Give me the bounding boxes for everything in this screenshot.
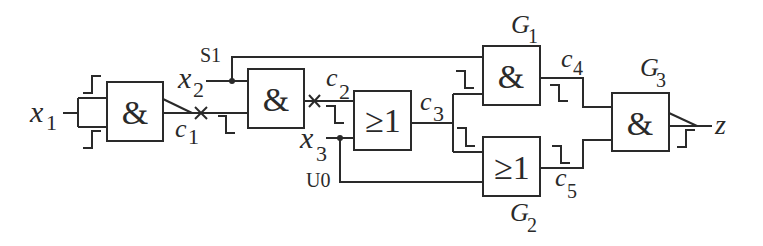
signal-c4-label: c [561,44,573,73]
gate-g3-symbol: & [627,105,653,142]
rising-edge-icon [677,130,695,147]
falling-edge-icon [326,106,344,123]
signal-c4-sub: 4 [573,57,583,79]
gate-g1: & G 1 [483,10,540,105]
signal-c3-sub: 3 [433,101,444,126]
gate-and-2-symbol: & [263,81,289,118]
rising-edge-icon [83,76,101,93]
falling-edge-icon [457,128,475,146]
gate-g1-symbol: & [498,58,524,95]
falling-edge-icon [550,85,568,101]
input-x2: x 2 [177,61,248,102]
signal-c2-sub: 2 [339,79,350,104]
signal-c5-label: c [555,163,567,192]
signal-c3-label: c [420,87,432,116]
falling-edge-icon [552,146,570,163]
fault-branch-s1: S1 [200,44,483,81]
gate-g2-symbol: ≥1 [494,149,530,186]
input-x2-sub: 2 [193,77,204,102]
fault-s1-label: S1 [200,44,221,66]
rising-edge-icon [83,131,101,148]
input-x1-sub: 1 [46,110,57,135]
signal-c1: c 1 [163,99,248,149]
gate-and-2: & [248,69,304,128]
gate-g3-sub: 3 [656,69,666,91]
signal-c5-sub: 5 [567,180,577,202]
input-x3-sub: 3 [316,141,327,166]
input-x3: x 3 [299,121,354,166]
gate-g2-sub: 2 [527,214,537,236]
gate-and-1: & [107,82,163,141]
output-z-label: z [714,109,726,140]
gate-or-1: ≥1 [354,91,411,150]
output-z: z [669,109,726,140]
gate-g1-sub: 1 [528,25,538,47]
gate-or-1-symbol: ≥1 [365,102,401,139]
gate-g2: ≥1 G 2 [483,137,540,236]
falling-edge-icon [456,71,474,88]
signal-c4: c 4 [540,44,612,107]
input-x3-label: x [299,121,314,154]
signal-c2-label: c [326,63,338,92]
signal-c5: c 5 [540,140,612,202]
gate-and-1-symbol: & [122,94,148,131]
logic-circuit-diagram: x 1 & c 1 x 2 S1 & c 2 [0,0,763,246]
fault-u0-label: U0 [306,169,330,191]
signal-c1-sub: 1 [188,124,199,149]
input-x2-label: x [177,61,192,94]
input-x1-label: x [29,95,44,128]
falling-edge-icon [218,116,235,133]
gate-g3: & G 3 [612,53,669,151]
signal-c1-label: c [175,114,187,143]
signal-c3: c 3 [411,87,483,152]
input-x1: x 1 [29,95,107,135]
